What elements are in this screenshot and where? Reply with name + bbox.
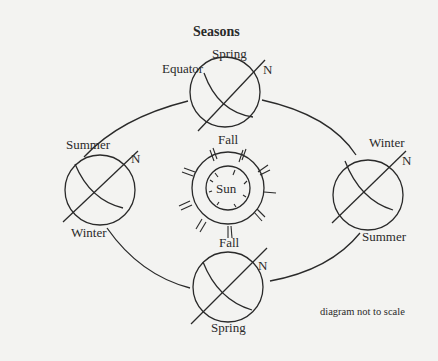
label-left-north: N: [131, 152, 140, 165]
label-right-summer: Summer: [362, 230, 406, 243]
label-bottom-north: N: [258, 259, 267, 272]
label-bottom-spring: Spring: [211, 321, 246, 334]
scale-note: diagram not to scale: [320, 307, 405, 318]
label-top-fall: Fall: [218, 133, 238, 146]
label-left-summer: Summer: [66, 138, 110, 151]
earth-left: [63, 151, 138, 225]
label-top-spring: Spring: [212, 47, 247, 60]
diagram-title: Seasons: [193, 25, 240, 39]
orbit-arc-top-right: [262, 100, 356, 155]
label-right-north: N: [402, 154, 411, 167]
label-equator: Equator: [162, 62, 203, 75]
sun-label: Sun: [216, 182, 236, 195]
label-bottom-fall: Fall: [219, 236, 239, 249]
earth-right: [332, 151, 406, 230]
label-left-winter: Winter: [71, 226, 107, 239]
orbit-arc-bottom-right: [270, 233, 360, 281]
orbit-arc-left-bottom: [107, 228, 190, 288]
label-right-winter: Winter: [369, 136, 405, 149]
earth-bottom: [191, 248, 267, 324]
label-top-north: N: [263, 63, 272, 76]
